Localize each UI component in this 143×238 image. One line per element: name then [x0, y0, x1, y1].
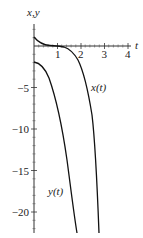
x-axis-label: t — [135, 39, 139, 51]
y-axis-label: x,y — [26, 6, 40, 18]
x-curve — [34, 37, 99, 233]
y-tick-neg20: −20 — [12, 206, 30, 218]
chart: x,y t 1 2 3 4 −5 −10 −15 −20 x(t) y(t) — [0, 0, 143, 238]
y-tick-neg10: −10 — [12, 123, 30, 135]
y-tick-neg15: −15 — [12, 165, 30, 177]
x-tick-1: 1 — [55, 48, 61, 60]
x-tick-3: 3 — [102, 48, 108, 60]
x-tick-2: 2 — [78, 48, 84, 60]
x-curve-label: x(t) — [90, 81, 107, 94]
y-curve-label: y(t) — [47, 185, 64, 198]
y-tick-neg5: −5 — [17, 82, 29, 94]
y-curve — [34, 62, 77, 233]
x-tick-4: 4 — [125, 48, 131, 60]
